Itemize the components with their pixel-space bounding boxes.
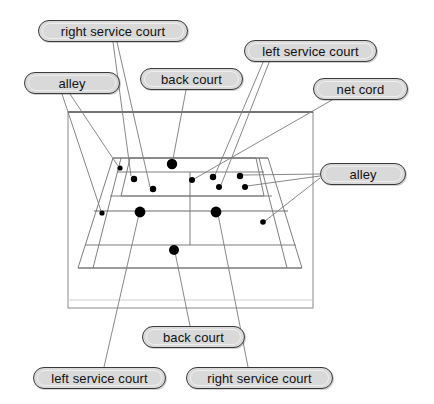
label-net-cord[interactable]: net cord bbox=[313, 78, 408, 100]
label-right-service-court-bottom[interactable]: right service court bbox=[186, 367, 333, 389]
court-frame-rect bbox=[68, 112, 313, 308]
label-alley-left[interactable]: alley bbox=[24, 72, 120, 94]
label-left-service-court-top[interactable]: left service court bbox=[244, 40, 377, 62]
data-point-p3 bbox=[150, 186, 156, 192]
label-text: alley bbox=[345, 168, 380, 181]
data-point-p7 bbox=[216, 184, 222, 190]
label-text: alley bbox=[54, 77, 89, 90]
label-text: right service court bbox=[203, 372, 316, 385]
leader-line-left-service-court-bottom bbox=[104, 214, 139, 367]
data-point-p2 bbox=[131, 176, 137, 182]
leader-line-right-service-court-top bbox=[117, 42, 150, 187]
label-text: net cord bbox=[333, 83, 389, 96]
data-point-p12 bbox=[211, 207, 222, 218]
data-point-p10 bbox=[99, 210, 104, 215]
data-points-group bbox=[99, 159, 265, 255]
court-frame-group bbox=[68, 112, 313, 308]
leader-line-alley-left bbox=[70, 94, 118, 166]
label-back-court-bottom[interactable]: back court bbox=[142, 326, 245, 348]
leader-line-back-court-bottom bbox=[175, 252, 190, 326]
label-alley-right[interactable]: alley bbox=[320, 163, 406, 185]
label-back-court-top[interactable]: back court bbox=[140, 68, 243, 90]
data-point-p13 bbox=[260, 219, 266, 225]
leader-line-back-court-top bbox=[173, 90, 186, 159]
leader-line-alley-right bbox=[243, 174, 320, 175]
leader-line-alley-right bbox=[247, 176, 320, 186]
data-point-p4 bbox=[167, 159, 177, 169]
label-text: right service court bbox=[57, 25, 170, 38]
label-right-service-court-top[interactable]: right service court bbox=[38, 20, 188, 42]
tennis-court-diagram: right service court left service court a… bbox=[0, 0, 434, 404]
data-point-p5 bbox=[189, 177, 195, 183]
data-point-p11 bbox=[135, 207, 146, 218]
singles-sideline-left bbox=[93, 158, 121, 268]
data-point-p1 bbox=[117, 165, 122, 170]
data-point-p8 bbox=[237, 173, 243, 179]
leader-line-alley-right bbox=[265, 178, 320, 221]
label-text: back court bbox=[159, 331, 228, 344]
label-text: left service court bbox=[47, 372, 151, 385]
label-text: back court bbox=[157, 73, 226, 86]
label-text: left service court bbox=[258, 45, 362, 58]
data-point-p14 bbox=[169, 245, 179, 255]
label-left-service-court-bottom[interactable]: left service court bbox=[33, 367, 166, 389]
data-point-p6 bbox=[210, 174, 216, 180]
data-point-p9 bbox=[242, 184, 248, 190]
